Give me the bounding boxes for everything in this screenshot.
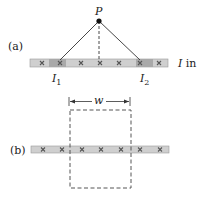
line-p-to-i2 xyxy=(99,21,140,60)
arrowhead-left-icon xyxy=(70,100,75,104)
panel-a: (a) P I1 I2 I in xyxy=(8,5,196,87)
current-i2-label: I2 xyxy=(139,72,149,87)
width-label: w xyxy=(94,94,104,107)
point-p-label: P xyxy=(94,5,103,18)
point-p-dot-icon xyxy=(96,18,101,23)
panel-a-label: (a) xyxy=(8,40,23,53)
current-direction-label: I in xyxy=(177,57,196,70)
panel-b-label: (b) xyxy=(10,144,26,157)
current-sheet-diagram: (a) P I1 I2 I in (b) xyxy=(0,0,206,199)
arrowhead-right-icon xyxy=(124,100,129,104)
strip-i2-highlight xyxy=(136,59,153,67)
line-p-to-i1 xyxy=(60,21,99,60)
current-sheet-b xyxy=(31,146,169,153)
strip-i1-highlight xyxy=(49,59,66,67)
panel-b: (b) w xyxy=(10,94,169,188)
current-i1-label: I1 xyxy=(51,72,61,87)
